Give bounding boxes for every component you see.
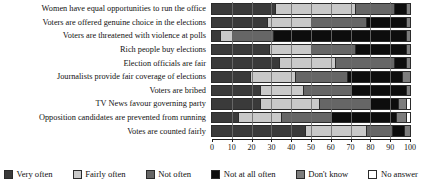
bar-segment [212,72,250,82]
bar-segment [220,31,232,41]
legend-label: Fairly often [85,170,125,179]
x-axis-tick-label: 50 [307,143,315,152]
bar-segment [406,4,410,14]
bar-row-label: Opposition candidates are prevented from… [0,113,211,122]
bar-segment [232,31,274,41]
x-axis-tick-label: 100 [404,143,416,152]
bar-row: Rich people buy elections [0,43,421,57]
bar-segment [394,58,406,68]
x-axis-tick-label: 70 [347,143,355,152]
bar-track [211,112,411,124]
plot-area: Women have equal opportunities to run th… [0,0,421,160]
bar-segment [212,113,238,123]
legend-item[interactable]: Not often [146,170,191,179]
legend-swatch-icon [211,170,220,179]
bar-segment [394,4,406,14]
bar-segment [351,86,406,96]
legend-item[interactable]: Don't know [296,170,348,179]
bar-segment [370,99,398,109]
bar-track [211,71,411,83]
legend-label: Not often [158,170,191,179]
bar-segment [406,45,410,55]
legend-label: Don't know [308,170,348,179]
bar-segment [238,113,282,123]
x-axis: 0102030405060708090100 [212,139,411,159]
x-axis-tick-label: 0 [210,143,214,152]
bar-segment [406,113,410,123]
bar-segment [331,113,396,123]
bar-segment [406,58,410,68]
bar-row-label: Election officials are fair [0,59,211,68]
legend-swatch-icon [368,170,377,179]
stacked-bar-chart: Women have equal opportunities to run th… [0,0,421,189]
legend-swatch-icon [4,170,13,179]
bar-row: TV News favour governing party [0,97,421,111]
bar-rows: Women have equal opportunities to run th… [0,2,421,138]
bar-segment [260,86,304,96]
bar-row-label: Rich people buy elections [0,45,211,54]
bar-row: Election officials are fair [0,56,421,70]
legend-label: Not at all often [224,170,276,179]
bar-segment [402,72,410,82]
x-axis-tick-label: 20 [248,143,256,152]
bar-segment [275,4,354,14]
bar-segment [281,113,331,123]
bar-segment [212,86,260,96]
bar-segment [406,31,410,41]
bar-segment [305,126,366,136]
bar-track [211,85,411,97]
bar-segment [279,58,334,68]
bar-segment [406,18,410,28]
bar-row: Opposition candidates are prevented from… [0,111,421,125]
bar-segment [269,45,311,55]
bar-segment [366,126,392,136]
x-axis-tick-label: 90 [386,143,394,152]
bar-track [211,125,411,137]
legend-item[interactable]: Very often [4,170,53,179]
bar-segment [212,99,260,109]
bar-segment [212,4,275,14]
bar-row-label: Votes are counted fairly [0,127,211,136]
bar-track [211,30,411,42]
bar-segment [311,45,355,55]
bar-segment [335,58,394,68]
bar-track [211,17,411,29]
bar-segment [260,99,319,109]
x-axis-tick-label: 40 [287,143,295,152]
bar-row-label: TV News favour governing party [0,99,211,108]
bar-segment [406,99,410,109]
bar-row-label: Women have equal opportunities to run th… [0,4,211,13]
bar-segment [273,31,406,41]
x-axis-tick-label: 30 [267,143,275,152]
bar-segment [398,99,406,109]
bar-row-label: Voters are threatened with violence at p… [0,31,211,40]
legend-item[interactable]: Fairly often [73,170,126,179]
legend-item[interactable]: Not at all often [211,170,275,179]
bar-segment [303,86,351,96]
legend-swatch-icon [73,170,82,179]
bar-segment [212,45,269,55]
chart-legend: Very oftenFairly oftenNot oftenNot at al… [4,164,418,184]
bar-row: Voters are bribed [0,84,421,98]
bar-segment [311,18,366,28]
bar-segment [250,72,296,82]
bar-row: Voters are threatened with violence at p… [0,29,421,43]
legend-item[interactable]: No answer [368,170,418,179]
bar-segment [295,72,346,82]
bar-segment [355,4,395,14]
bar-track [211,44,411,56]
bar-segment [347,72,402,82]
bar-track [211,57,411,69]
bar-segment [212,126,305,136]
bar-segment [392,126,404,136]
x-axis-tick-label: 10 [228,143,236,152]
bar-row: Votes are counted fairly [0,124,421,138]
bar-segment [355,45,406,55]
bar-track [211,98,411,110]
bar-segment [319,99,370,109]
legend-swatch-icon [146,170,155,179]
x-axis-tick-label: 80 [366,143,374,152]
legend-swatch-icon [296,170,305,179]
legend-label: Very often [17,170,53,179]
bar-segment [267,18,311,28]
